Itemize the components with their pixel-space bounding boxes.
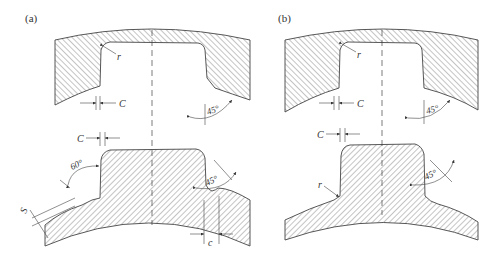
panel-a-upper-angle-label: 45° <box>205 103 221 117</box>
panel-b-r2-leader <box>324 186 339 197</box>
panel-a: (a) r C 45° C 60° 45° <box>18 12 250 248</box>
panel-a-label: (a) <box>25 12 38 25</box>
panel-b-upper-die <box>285 29 478 112</box>
panel-b-label: (b) <box>278 12 291 25</box>
diagram-canvas: (a) r C 45° C 60° 45° <box>0 0 503 256</box>
panel-a-lower-clearance-label: C <box>77 133 84 144</box>
panel-b-lower-clearance-label: C <box>317 129 324 140</box>
panel-b: (b) r C 45° C r 45° <box>278 12 478 240</box>
panel-b-lower-angle-label: 45° <box>423 167 439 182</box>
panel-a-thickness-label: S <box>18 206 30 214</box>
panel-a-radius-label: r <box>117 51 121 62</box>
panel-a-upper-die <box>55 29 250 105</box>
panel-a-upper-clearance-label: C <box>119 98 126 109</box>
panel-b-lower-blank <box>285 144 478 240</box>
panel-b-radius-label: r <box>357 49 361 60</box>
panel-a-radius-leader <box>103 46 116 54</box>
panel-a-s-line <box>30 210 48 238</box>
panel-b-radius-leader <box>342 44 356 52</box>
panel-b-upper-angle-label: 45° <box>425 103 440 116</box>
panel-a-60-label: 60° <box>69 157 85 172</box>
panel-b-lower-radius-label: r <box>318 179 322 190</box>
panel-a-width-label: c <box>208 237 213 248</box>
panel-b-upper-clearance-label: C <box>357 98 364 109</box>
